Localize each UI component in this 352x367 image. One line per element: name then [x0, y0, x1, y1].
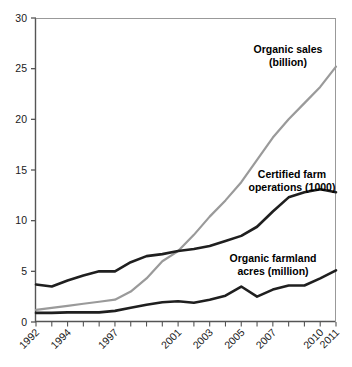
annotation-line: operations (1000): [249, 181, 336, 193]
x-axis-ticks: [36, 322, 336, 327]
x-tick-label: 1994: [48, 326, 73, 351]
annotation-organic-sales: Organic sales(billion): [254, 43, 323, 68]
y-tick-label: 10: [15, 214, 27, 226]
x-tick-label: 2001: [159, 326, 184, 351]
y-tick-label: 5: [21, 265, 27, 277]
y-axis-tick-labels: 051015202530: [15, 12, 27, 328]
chart-container: 051015202530 199219941997200120032005200…: [0, 0, 352, 367]
y-tick-label: 20: [15, 113, 27, 125]
annotation-line: Organic farmland: [230, 252, 317, 264]
annotation-certified-farm-operations: Certified farmoperations (1000): [249, 168, 336, 193]
line-chart: 051015202530 199219941997200120032005200…: [0, 0, 352, 367]
y-tick-label: 25: [15, 62, 27, 74]
x-tick-label: 2003: [190, 326, 215, 351]
annotation-organic-farmland-acres: Organic farmlandacres (million): [230, 252, 317, 277]
x-tick-label: 2005: [222, 326, 247, 351]
annotation-line: acres (million): [237, 265, 308, 277]
y-tick-label: 0: [21, 316, 27, 328]
x-tick-label: 2007: [253, 326, 278, 351]
y-tick-label: 15: [15, 164, 27, 176]
series-annotations: Organic sales(billion)Certified farmoper…: [230, 43, 336, 277]
annotation-line: Certified farm: [258, 168, 326, 180]
annotation-line: (billion): [269, 56, 307, 68]
x-axis-tick-labels: 199219941997200120032005200720102011: [16, 326, 341, 351]
x-tick-label: 1997: [95, 326, 120, 351]
x-tick-label: 1992: [16, 326, 41, 351]
annotation-line: Organic sales: [254, 43, 323, 55]
y-tick-label: 30: [15, 12, 27, 24]
